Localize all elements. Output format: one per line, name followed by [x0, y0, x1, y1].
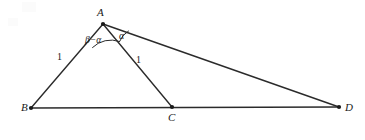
length-label-ab: 1	[57, 52, 62, 62]
angle-label-cad: α	[119, 31, 124, 41]
vertex-dot-b	[29, 106, 33, 110]
vertex-dot-d	[337, 105, 341, 109]
vertex-dot-a	[101, 22, 105, 26]
vertex-label-c: C	[168, 112, 175, 123]
vertex-label-d: D	[345, 102, 353, 113]
segment-bd	[31, 107, 339, 108]
length-label-ac: 1	[136, 55, 141, 65]
vertex-label-b: B	[21, 102, 28, 113]
vertex-label-a: A	[97, 7, 104, 18]
vertex-dot-c	[170, 105, 174, 109]
angle-label-bac: β−α	[85, 36, 101, 46]
geometry-figure: A B C D 1 1 β−α α	[0, 0, 365, 140]
diagram-canvas	[0, 0, 365, 140]
